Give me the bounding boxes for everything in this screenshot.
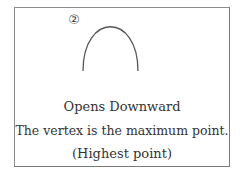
parabola-curve: [83, 27, 138, 71]
opens-downward-caption: Opens Downward: [14, 99, 230, 114]
vertex-maximum-caption: The vertex is the maximum point.: [14, 123, 230, 138]
highest-point-caption: (Highest point): [14, 146, 230, 161]
